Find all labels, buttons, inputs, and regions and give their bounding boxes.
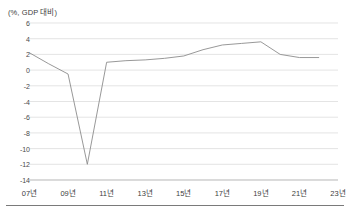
x-axis-tick-labels: 07년09년11년13년15년17년19년21년23년 (0, 0, 350, 219)
chart-figure: (%, GDP 대비) 6420-2-4-6-8-10-12-14 07년09년… (0, 0, 350, 219)
x-tick-label: 15년 (176, 187, 191, 198)
x-tick-label: 11년 (99, 187, 114, 198)
x-tick-label: 21년 (292, 187, 307, 198)
x-tick-label: 17년 (215, 187, 230, 198)
x-tick-label: 07년 (22, 187, 37, 198)
x-tick-label: 23년 (330, 187, 345, 198)
x-tick-label: 19년 (253, 187, 268, 198)
x-tick-label: 09년 (60, 187, 75, 198)
x-tick-label: 13년 (138, 187, 153, 198)
